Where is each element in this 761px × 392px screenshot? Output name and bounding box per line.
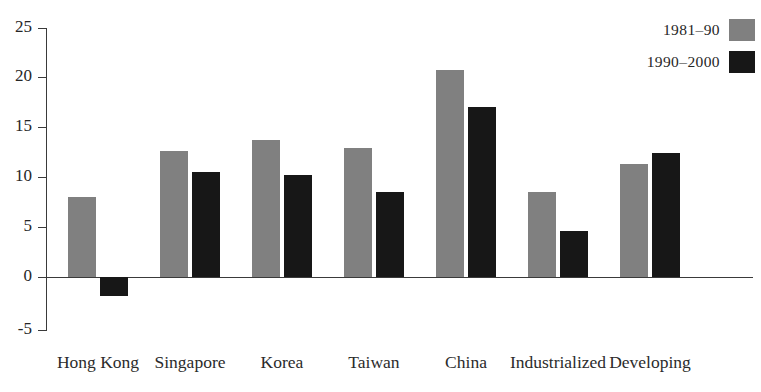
y-tick-label-25: 25 <box>15 17 32 36</box>
category-label-taiwan: Taiwan <box>348 352 399 373</box>
legend-row-1981-90: 1981–90 <box>600 16 755 44</box>
bar-industrialized-1990-2000 <box>560 231 588 277</box>
y-tick-label-minus5: -5 <box>18 319 32 338</box>
bar-china-1981-90 <box>436 70 464 277</box>
bar-industrialized-1981-90 <box>528 192 556 277</box>
bar-taiwan-1981-90 <box>344 148 372 277</box>
y-tick-20 <box>38 77 47 78</box>
y-tick-label-10: 10 <box>15 166 32 185</box>
category-label-korea: Korea <box>261 352 304 373</box>
bar-taiwan-1990-2000 <box>376 192 404 277</box>
bar-singapore-1990-2000 <box>192 172 220 277</box>
legend-label-1990-2000: 1990–2000 <box>647 53 720 71</box>
bar-chart: 25 20 15 10 5 0 -5 Hong KongSingaporeKor… <box>0 0 761 392</box>
bar-developing-1990-2000 <box>652 153 680 277</box>
category-label-developing: Developing <box>609 352 691 373</box>
bar-korea-1981-90 <box>252 140 280 277</box>
legend-label-1981-90: 1981–90 <box>663 21 720 39</box>
category-label-hong-kong: Hong Kong <box>57 352 139 373</box>
y-tick-25 <box>38 28 47 29</box>
bar-korea-1990-2000 <box>284 175 312 277</box>
bar-china-1990-2000 <box>468 107 496 277</box>
bar-developing-1981-90 <box>620 164 648 277</box>
y-tick-5 <box>38 227 47 228</box>
x-axis-baseline <box>46 277 753 278</box>
bar-hong-kong-1990-2000 <box>100 277 128 296</box>
legend-swatch-1990-2000 <box>729 51 755 73</box>
y-tick-label-15: 15 <box>15 116 32 135</box>
category-label-singapore: Singapore <box>155 352 226 373</box>
y-tick-label-5: 5 <box>24 216 33 235</box>
y-tick-label-0: 0 <box>24 266 33 285</box>
bar-hong-kong-1981-90 <box>68 197 96 277</box>
legend-row-1990-2000: 1990–2000 <box>600 48 755 76</box>
chart-legend: 1981–90 1990–2000 <box>600 16 755 80</box>
y-axis-line <box>46 28 47 330</box>
y-tick-10 <box>38 177 47 178</box>
category-label-industrialized: Industrialized <box>510 352 606 373</box>
y-tick-0 <box>38 277 47 278</box>
y-tick-15 <box>38 127 47 128</box>
legend-swatch-1981-90 <box>729 19 755 41</box>
bar-singapore-1981-90 <box>160 151 188 277</box>
category-label-china: China <box>445 352 487 373</box>
y-tick-minus5 <box>38 330 47 331</box>
y-tick-label-20: 20 <box>15 66 32 85</box>
